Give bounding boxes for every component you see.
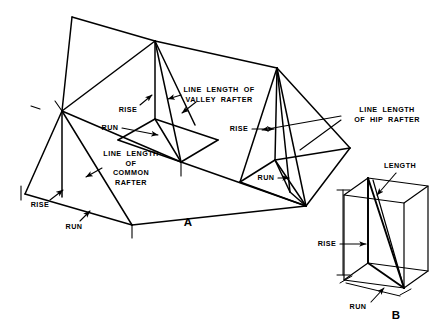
valley-rafter-label: LINE LENGTH OF VALLEY RAFTER xyxy=(183,85,254,104)
panel-b-rafter-triangle xyxy=(368,178,404,288)
run-label-b: RUN xyxy=(350,302,367,312)
panel-a-roof xyxy=(21,17,350,238)
roof-framing-drawing xyxy=(0,0,442,331)
hip-rafter-unit xyxy=(240,68,350,206)
rise-label-hip: RISE xyxy=(230,124,249,134)
hip-rafter-label: LINE LENGTH OF HIP RAFTER xyxy=(354,105,420,124)
rise-label-b: RISE xyxy=(318,239,337,249)
panel-letter-a: A xyxy=(184,216,192,228)
run-label-common: RUN xyxy=(66,222,83,232)
figure-roof-framing: LINE LENGTH OF COMMON RAFTER LINE LENGTH… xyxy=(0,0,442,331)
rise-label-valley: RISE xyxy=(119,105,138,115)
panel-letter-b: B xyxy=(392,309,400,321)
common-rafter-label: LINE LENGTH OF COMMON RAFTER xyxy=(103,149,158,187)
rise-label-common: RISE xyxy=(31,200,50,210)
length-label-b: LENGTH xyxy=(384,161,416,171)
run-label-hip: RUN xyxy=(258,173,275,183)
run-label-valley: RUN xyxy=(102,123,119,133)
